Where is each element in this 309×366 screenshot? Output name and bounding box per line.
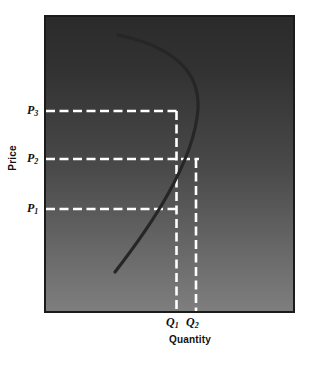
y-axis-title: Price — [8, 134, 18, 182]
y-tick-p2-sub: 2 — [34, 157, 38, 166]
supply-curve-figure: P3 P2 P1 Q1 Q2 Price Quantity — [0, 0, 309, 366]
plot-svg — [46, 17, 293, 311]
plot-area — [44, 15, 295, 313]
x-tick-label-q1: Q1 — [166, 316, 179, 328]
y-tick-label-p3: P3 — [27, 104, 38, 116]
x-tick-label-q2: Q2 — [186, 316, 199, 328]
x-tick-q2-sub: 2 — [195, 321, 199, 330]
y-tick-p3-sub: 3 — [34, 109, 38, 118]
y-tick-label-p2: P2 — [27, 152, 38, 164]
y-tick-p1-sub: 1 — [34, 207, 38, 216]
x-tick-q1-text: Q — [166, 315, 175, 329]
x-tick-q2-text: Q — [186, 315, 195, 329]
x-axis-title: Quantity — [140, 335, 240, 345]
supply-curve — [115, 35, 198, 272]
x-tick-q1-sub: 1 — [175, 321, 179, 330]
y-tick-label-p1: P1 — [27, 202, 38, 214]
